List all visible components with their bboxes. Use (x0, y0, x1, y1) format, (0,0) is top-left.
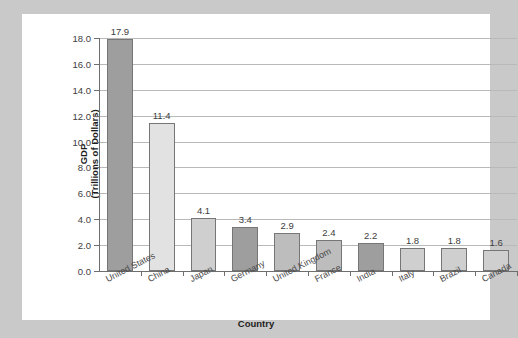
bar-value-label: 2.9 (280, 220, 293, 231)
bar: 17.9 (107, 39, 133, 271)
y-axis-tick (94, 167, 99, 168)
bar-value-label: 3.4 (239, 214, 252, 225)
bar: 11.4 (149, 123, 175, 271)
y-axis-tick-label: 6.0 (78, 188, 91, 199)
y-axis-tick (94, 90, 99, 91)
x-axis-title: Country (22, 318, 490, 329)
bar-value-label: 17.9 (111, 26, 130, 37)
bar: 4.1 (191, 218, 217, 271)
x-axis-tick (433, 271, 434, 276)
gridline (99, 38, 517, 39)
y-axis-tick (94, 38, 99, 39)
bar-value-label: 1.8 (406, 235, 419, 246)
x-axis-tick (392, 271, 393, 276)
bar-value-label: 1.8 (448, 235, 461, 246)
x-axis-tick (183, 271, 184, 276)
y-axis-title: GDP (Trillions of Dollars) (78, 109, 100, 198)
y-axis-tick-label: 2.0 (78, 240, 91, 251)
y-axis-tick (94, 116, 99, 117)
x-axis-tick (224, 271, 225, 276)
y-axis-title-line1: GDP (78, 109, 89, 198)
y-axis-tick-label: 14.0 (73, 84, 92, 95)
y-axis-line (99, 38, 100, 271)
x-axis-tick (266, 271, 267, 276)
bar-value-label: 2.4 (322, 227, 335, 238)
y-axis-tick-label: 10.0 (73, 136, 92, 147)
chart-card: GDP (Trillions of Dollars) 17.911.44.13.… (22, 14, 490, 320)
x-axis-tick (308, 271, 309, 276)
y-axis-tick-label: 4.0 (78, 214, 91, 225)
y-axis-tick-label: 0.0 (78, 266, 91, 277)
y-axis-tick-label: 18.0 (73, 33, 92, 44)
y-axis-tick-label: 12.0 (73, 110, 92, 121)
gridline (99, 64, 517, 65)
y-axis-tick-label: 16.0 (73, 58, 92, 69)
bar-value-label: 2.2 (364, 230, 377, 241)
bar-value-label: 1.6 (489, 237, 502, 248)
plot-inner: 17.911.44.13.42.92.42.21.81.81.6 (99, 38, 517, 271)
y-axis-tick (94, 142, 99, 143)
y-axis-tick (94, 219, 99, 220)
bar-value-label: 4.1 (197, 205, 210, 216)
x-axis-tick (141, 271, 142, 276)
bar-value-label: 11.4 (153, 110, 171, 121)
y-axis-tick-label: 8.0 (78, 162, 91, 173)
plot-area: 17.911.44.13.42.92.42.21.81.81.6 0.02.04… (99, 38, 517, 271)
y-axis-title-line2: (Trillions of Dollars) (89, 109, 100, 198)
y-axis-tick (94, 64, 99, 65)
gridline (99, 90, 517, 91)
y-axis-tick (94, 193, 99, 194)
y-axis-tick (94, 245, 99, 246)
x-axis-tick (475, 271, 476, 276)
y-axis-tick (94, 271, 99, 272)
x-axis-tick (350, 271, 351, 276)
